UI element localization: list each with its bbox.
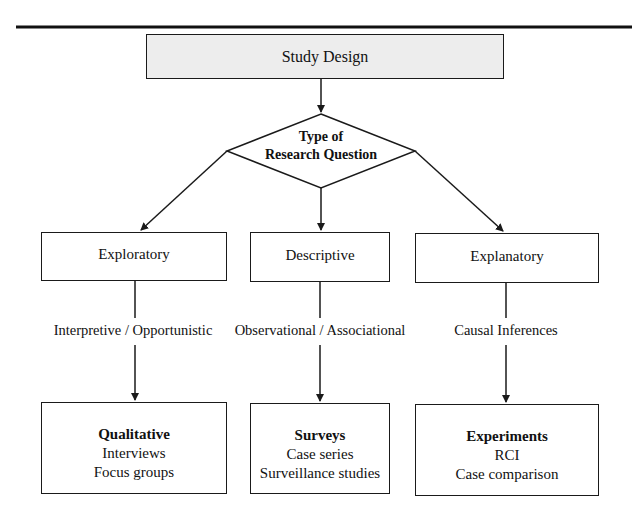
research-question-label: Type of Research Question <box>265 128 377 164</box>
explanatory-box: Explanatory <box>415 233 599 283</box>
exploratory-box: Exploratory <box>41 232 227 281</box>
experiments-box: Experiments RCI Case comparison <box>415 404 599 496</box>
interpretive-label: Interpretive / Opportunistic <box>54 322 213 339</box>
study-design-box: Study Design <box>146 34 504 79</box>
qualitative-box: Qualitative Interviews Focus groups <box>41 402 227 494</box>
observational-label: Observational / Associational <box>235 322 406 339</box>
study-design-label: Study Design <box>282 48 369 66</box>
causal-label: Causal Inferences <box>454 322 557 339</box>
descriptive-box: Descriptive <box>250 232 390 282</box>
surveys-box: Surveys Case series Surveillance studies <box>250 403 390 494</box>
